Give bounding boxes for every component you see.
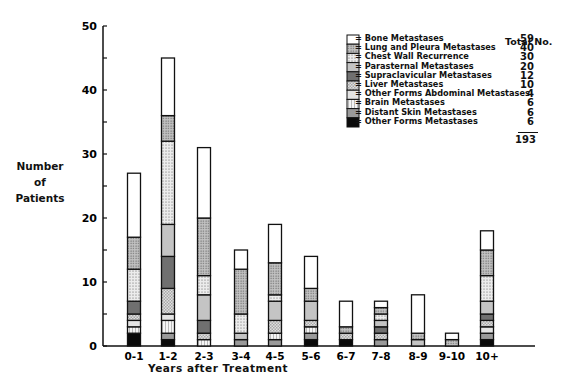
bar-segment xyxy=(481,327,494,333)
bar-1-2 xyxy=(162,58,175,346)
y-tick-label: 10 xyxy=(82,276,98,289)
legend-total: 6 xyxy=(500,117,534,126)
bar-segment xyxy=(162,256,175,288)
bar-segment xyxy=(446,340,459,346)
bar-6-7 xyxy=(340,301,353,346)
bar-segment xyxy=(162,333,175,339)
bar-segment xyxy=(198,320,211,333)
y-tick-label: 0 xyxy=(89,340,97,353)
bar-segment xyxy=(198,148,211,218)
bar-segment xyxy=(162,288,175,314)
bar-segment xyxy=(128,333,141,346)
x-axis-label: Years after Treatment xyxy=(148,362,288,374)
x-tick-label: 8-9 xyxy=(409,350,428,362)
bar-3-4 xyxy=(235,250,248,346)
bar-segment xyxy=(375,314,388,320)
bar-segment xyxy=(162,320,175,333)
bar-segment xyxy=(128,320,141,326)
bar-segment xyxy=(235,314,248,333)
bar-segment xyxy=(128,314,141,320)
bar-segment xyxy=(340,333,353,339)
legend-label: = Other Forms Metastases xyxy=(355,117,500,126)
x-tick-label: 10+ xyxy=(475,350,498,362)
bar-segment xyxy=(198,218,211,276)
bar-segment xyxy=(235,340,248,346)
bar-segment xyxy=(481,314,494,320)
y-tick-label: 30 xyxy=(82,148,98,161)
bar-segment xyxy=(305,333,318,339)
bar-segment xyxy=(375,320,388,326)
bar-segment xyxy=(128,173,141,237)
bar-segment xyxy=(305,301,318,320)
x-tick-label: 9-10 xyxy=(439,350,465,362)
grand-total: 193 xyxy=(515,134,536,145)
bar-segment xyxy=(446,333,459,339)
bar-segment xyxy=(162,58,175,116)
bar-segment xyxy=(269,301,282,320)
y-axis-label: Number of Patients xyxy=(10,158,70,206)
y-tick-label: 50 xyxy=(82,20,98,33)
bar-segment xyxy=(162,314,175,320)
bar-segment xyxy=(198,276,211,295)
bar-segment xyxy=(128,327,141,333)
bar-8-9 xyxy=(412,295,425,346)
bar-5-6 xyxy=(305,256,318,346)
bar-segment xyxy=(340,340,353,346)
bar-4-5 xyxy=(269,224,282,346)
x-tick-label: 3-4 xyxy=(232,350,251,362)
x-tick-label: 6-7 xyxy=(337,350,356,362)
y-tick-label: 40 xyxy=(82,84,98,97)
x-tick-label: 7-8 xyxy=(372,350,391,362)
bar-segment xyxy=(305,327,318,333)
x-tick-label: 5-6 xyxy=(302,350,321,362)
bar-segment xyxy=(412,333,425,339)
x-tick-label: 1-2 xyxy=(159,350,178,362)
bar-segment xyxy=(269,263,282,295)
bar-segment xyxy=(481,276,494,302)
bar-segment xyxy=(481,340,494,346)
bar-segment xyxy=(235,333,248,339)
bar-segment xyxy=(375,340,388,346)
bar-segment xyxy=(481,250,494,276)
bar-segment xyxy=(128,269,141,301)
bar-0-1 xyxy=(128,173,141,346)
bar-segment xyxy=(340,327,353,333)
bar-segment xyxy=(412,295,425,333)
bar-segment xyxy=(269,295,282,301)
bar-segment xyxy=(481,301,494,314)
bar-9-10 xyxy=(446,333,459,346)
bar-segment xyxy=(375,333,388,339)
bar-segment xyxy=(305,256,318,288)
bar-segment xyxy=(305,288,318,301)
bar-segment xyxy=(235,250,248,269)
bar-segment xyxy=(128,237,141,269)
bar-10+ xyxy=(481,231,494,346)
bar-segment xyxy=(198,295,211,321)
bar-segment xyxy=(198,340,211,346)
y-tick-label: 20 xyxy=(82,212,98,225)
bar-segment xyxy=(375,308,388,314)
bar-segment xyxy=(198,333,211,339)
bar-segment xyxy=(162,340,175,346)
x-tick-label: 4-5 xyxy=(266,350,285,362)
bar-segment xyxy=(481,320,494,326)
bar-segment xyxy=(269,340,282,346)
bar-segment xyxy=(412,340,425,346)
legend: = Bone Metastases59= Lung and Pleura Met… xyxy=(345,34,534,126)
legend-item: = Other Forms Metastases6 xyxy=(345,117,534,126)
bar-segment xyxy=(162,141,175,224)
bar-segment xyxy=(269,320,282,333)
bar-segment xyxy=(305,320,318,326)
bar-segment xyxy=(340,301,353,327)
bar-segment xyxy=(162,224,175,256)
bar-segment xyxy=(269,333,282,339)
bar-7-8 xyxy=(375,301,388,346)
bar-segment xyxy=(481,333,494,339)
bar-segment xyxy=(269,224,282,262)
bar-segment xyxy=(235,269,248,314)
bar-segment xyxy=(375,301,388,307)
x-tick-label: 0-1 xyxy=(125,350,144,362)
bar-segment xyxy=(128,301,141,314)
sum-divider xyxy=(518,132,538,133)
bar-segment xyxy=(375,327,388,333)
